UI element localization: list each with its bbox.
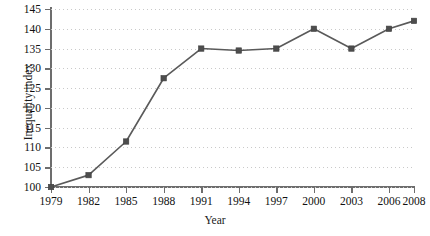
data-point-marker <box>199 46 204 51</box>
data-point-marker <box>123 139 128 144</box>
data-point-marker <box>411 18 416 23</box>
data-point-marker <box>161 76 166 81</box>
data-point-marker <box>386 26 391 31</box>
data-point-marker <box>311 26 316 31</box>
series-line-inequality-index <box>51 21 414 187</box>
data-point-marker <box>48 184 53 189</box>
data-point-marker <box>274 46 279 51</box>
data-point-marker <box>236 48 241 53</box>
data-point-marker <box>349 46 354 51</box>
data-point-marker <box>86 172 91 177</box>
